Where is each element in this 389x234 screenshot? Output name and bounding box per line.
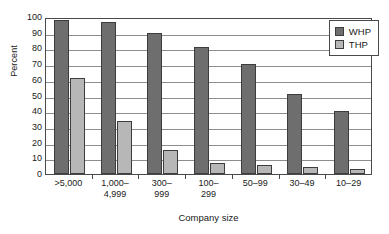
- category-label-line1: >5,000: [45, 178, 92, 189]
- bar-group: [233, 19, 280, 174]
- chart-legend: WHPTHP: [329, 20, 379, 56]
- category-label-line1: 30–49: [279, 178, 326, 189]
- x-axis-title: Company size: [45, 212, 372, 223]
- y-axis-tick-label: 40: [16, 107, 42, 116]
- x-axis-category-labels: >5,0001,000–4,999300–999100–29950–9930–4…: [45, 178, 372, 212]
- bar-thp: [210, 163, 225, 174]
- bar-group: [46, 19, 93, 174]
- bar-group: [139, 19, 186, 174]
- legend-label: WHP: [349, 27, 371, 37]
- x-axis-category-label: 100–299: [185, 178, 232, 200]
- bar-thp: [117, 121, 132, 174]
- category-label-line1: 10–29: [325, 178, 372, 189]
- bar-thp: [70, 78, 85, 174]
- bar-whp: [54, 20, 69, 174]
- y-axis-tick-label: 70: [16, 60, 42, 69]
- category-label-line1: 1,000–: [92, 178, 139, 189]
- bar-whp: [147, 33, 162, 174]
- y-axis-tick-label: 60: [16, 76, 42, 85]
- bar-thp: [163, 150, 178, 174]
- y-axis-tick-label: 100: [16, 13, 42, 22]
- category-label-line2: 299: [185, 189, 232, 200]
- legend-swatch-icon: [335, 27, 344, 36]
- bar-whp: [194, 47, 209, 174]
- x-axis-category-label: 10–29: [325, 178, 372, 189]
- bar-whp: [334, 111, 349, 174]
- x-axis-category-label: 300–999: [138, 178, 185, 200]
- bar-whp: [241, 64, 256, 174]
- category-label-line1: 100–: [185, 178, 232, 189]
- y-axis-tick-label: 30: [16, 123, 42, 132]
- x-axis-category-label: >5,000: [45, 178, 92, 189]
- bar-chart: Percent 1009080706050403020100 >5,0001,0…: [0, 0, 389, 234]
- bar-thp: [303, 167, 318, 174]
- y-axis-tick-label: 0: [16, 170, 42, 179]
- legend-item-whp: WHP: [335, 25, 371, 38]
- y-axis-tick-labels: 1009080706050403020100: [13, 18, 42, 175]
- bar-thp: [257, 165, 272, 174]
- legend-label: THP: [349, 40, 368, 50]
- bar-group: [280, 19, 327, 174]
- legend-item-thp: THP: [335, 38, 371, 51]
- bar-whp: [287, 94, 302, 174]
- y-axis-tick-label: 10: [16, 154, 42, 163]
- category-label-line1: 50–99: [232, 178, 279, 189]
- x-axis-category-label: 30–49: [279, 178, 326, 189]
- y-axis-tick-label: 80: [16, 44, 42, 53]
- y-axis-tick-label: 20: [16, 139, 42, 148]
- bar-whp: [101, 22, 116, 174]
- bar-group: [93, 19, 140, 174]
- x-axis-category-label: 50–99: [232, 178, 279, 189]
- y-axis-tick-label: 50: [16, 92, 42, 101]
- bar-thp: [350, 169, 365, 174]
- bar-group: [186, 19, 233, 174]
- category-label-line2: 999: [138, 189, 185, 200]
- category-label-line1: 300–: [138, 178, 185, 189]
- y-axis-tick-label: 90: [16, 29, 42, 38]
- category-label-line2: 4,999: [92, 189, 139, 200]
- x-axis-category-label: 1,000–4,999: [92, 178, 139, 200]
- bars-layer: [46, 19, 371, 174]
- legend-swatch-icon: [335, 40, 344, 49]
- plot-area: [45, 18, 372, 175]
